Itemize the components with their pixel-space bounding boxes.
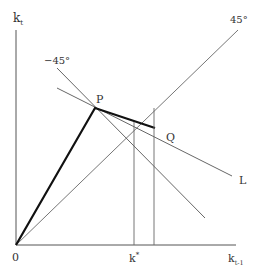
origin-label: 0 xyxy=(12,251,19,264)
y-axis-label: kt xyxy=(13,11,23,27)
line-45-label: 45° xyxy=(230,14,248,25)
x-axis-label: kt-1 xyxy=(228,252,244,267)
point-P-label: P xyxy=(96,93,104,106)
line-L-label: L xyxy=(239,174,247,187)
line-minus-45-degree xyxy=(57,68,205,218)
line-L xyxy=(57,88,232,176)
line-minus-45-label: −45° xyxy=(44,55,70,66)
dynamics-diagram: kt 0 kt-1 k* 45° −45° L P Q xyxy=(0,0,259,278)
point-Q-label: Q xyxy=(166,131,175,144)
k-star-label: k* xyxy=(129,251,140,265)
